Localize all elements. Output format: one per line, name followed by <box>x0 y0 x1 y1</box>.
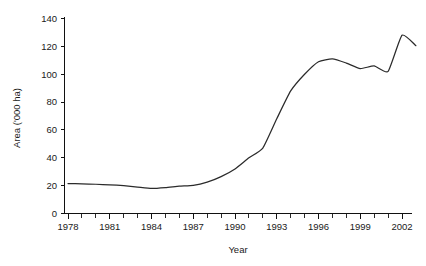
y-tick-label: 60 <box>46 124 57 135</box>
x-tick-marks <box>68 214 402 219</box>
x-tick-label: 1981 <box>99 221 120 232</box>
data-series-line <box>68 35 416 188</box>
y-tick-label: 100 <box>41 69 57 80</box>
x-axis-title: Year <box>228 244 247 255</box>
x-tick-label: 2002 <box>391 221 412 232</box>
y-tick-label: 80 <box>46 96 57 107</box>
y-tick-label: 20 <box>46 180 57 191</box>
y-axis-title: Area ('000 ha) <box>11 88 22 148</box>
x-tick-label: 1987 <box>183 221 204 232</box>
y-tick-label: 40 <box>46 152 57 163</box>
x-tick-label: 1993 <box>266 221 287 232</box>
x-tick-labels: 197819811984198719901993199619992002 <box>57 221 412 232</box>
x-tick-label: 1978 <box>57 221 78 232</box>
y-tick-label: 0 <box>52 208 57 219</box>
x-tick-label: 1999 <box>350 221 371 232</box>
y-tick-label: 120 <box>41 41 57 52</box>
y-tick-labels: 020406080100120140 <box>41 13 57 219</box>
y-tick-marks <box>61 19 65 214</box>
chart-figure: 020406080100120140 197819811984198719901… <box>0 0 426 266</box>
x-tick-label: 1990 <box>224 221 245 232</box>
y-tick-label: 140 <box>41 13 57 24</box>
line-chart-canvas: 020406080100120140 197819811984198719901… <box>0 0 426 266</box>
x-tick-label: 1984 <box>141 221 162 232</box>
x-tick-label: 1996 <box>308 221 329 232</box>
